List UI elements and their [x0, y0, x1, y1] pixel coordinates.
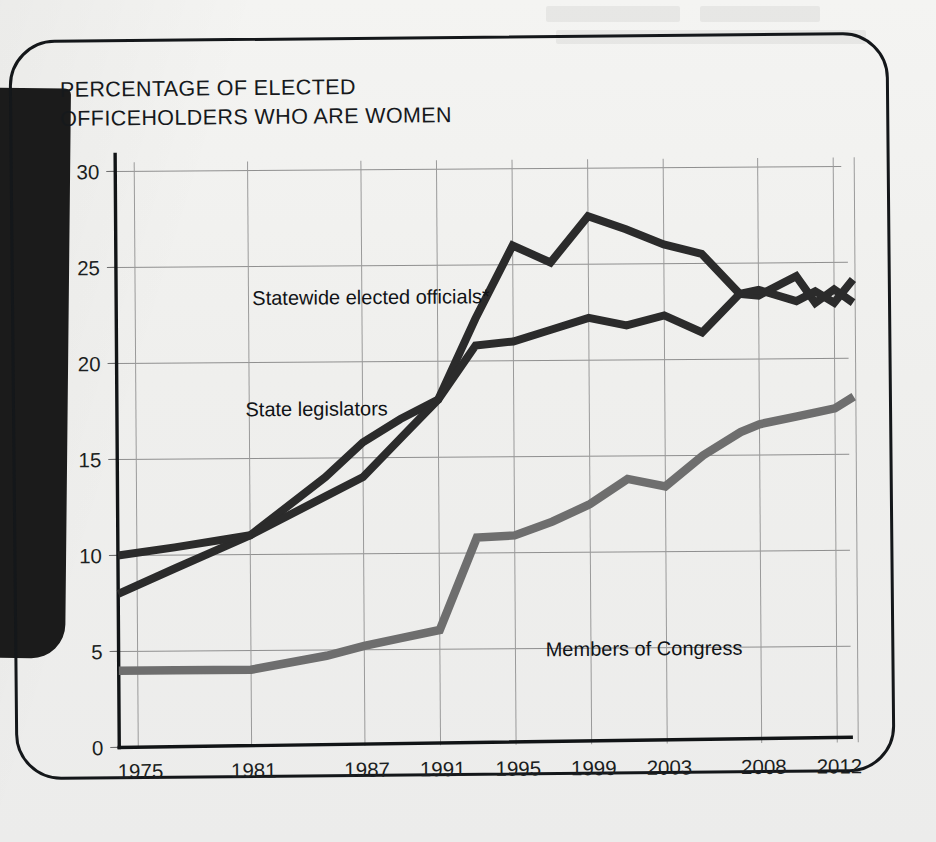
y-axis-label: 25: [77, 256, 100, 279]
y-axis-label: 30: [76, 160, 99, 183]
data-series-line: [117, 397, 856, 671]
gridline-vertical: [134, 162, 138, 747]
gridline-vertical: [248, 162, 252, 747]
gridline-horizontal: [118, 550, 850, 555]
gridline-horizontal: [117, 454, 849, 459]
series-label: State legislators: [245, 397, 387, 420]
line-chart-svg: 0510152025301975198119871991199519992003…: [0, 0, 936, 842]
x-axis-label: 1975: [118, 759, 164, 782]
x-axis-label: 1987: [344, 758, 390, 781]
y-axis-line: [115, 154, 119, 747]
x-axis-line: [119, 737, 851, 747]
x-axis-label: 2008: [741, 755, 787, 778]
gridline-vertical: [833, 157, 837, 742]
x-axis-label: 1999: [571, 756, 617, 779]
gridline-horizontal: [117, 358, 849, 363]
gridline-horizontal: [115, 166, 841, 171]
y-axis-label: 15: [78, 448, 101, 471]
series-label: Statewide elected officials*: [252, 285, 490, 309]
y-axis-label: 20: [78, 352, 101, 375]
gridline-vertical: [854, 157, 858, 742]
series-label: Members of Congress: [546, 637, 743, 660]
gridline-horizontal: [116, 262, 848, 267]
x-axis-label: 1995: [495, 756, 541, 779]
x-axis-label: 2012: [817, 754, 863, 777]
gridline-vertical: [436, 160, 440, 745]
x-axis-label: 1991: [420, 757, 466, 780]
y-axis-label: 0: [92, 736, 104, 759]
gridline-vertical: [361, 161, 365, 746]
chart-plot-area: 0510152025301975198119871991199519992003…: [0, 0, 936, 842]
y-axis-label: 10: [79, 544, 102, 567]
x-axis-label: 2003: [647, 755, 693, 778]
y-axis-label: 5: [91, 640, 103, 663]
x-axis-label: 1981: [231, 758, 277, 781]
data-series-line: [116, 280, 855, 556]
gridline-vertical: [758, 158, 762, 743]
